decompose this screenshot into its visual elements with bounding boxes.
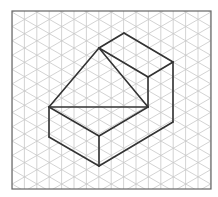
isometric-drawing: [0, 0, 218, 197]
grid-line-diagonal: [0, 0, 218, 7]
grid-line-diagonal: [0, 0, 218, 7]
grid-line-diagonal: [0, 189, 218, 197]
isometric-grid: [0, 0, 218, 197]
grid-line-diagonal: [0, 189, 218, 197]
